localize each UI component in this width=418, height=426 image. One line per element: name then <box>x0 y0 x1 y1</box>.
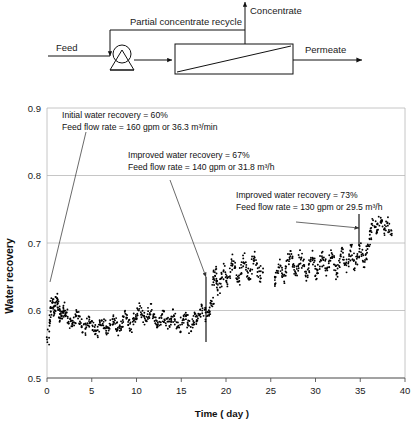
data-point <box>290 253 292 255</box>
data-point <box>313 261 315 263</box>
data-point <box>48 344 50 346</box>
data-point <box>257 271 259 273</box>
x-tick-label: 40 <box>400 385 411 396</box>
data-point <box>224 271 226 273</box>
data-point <box>219 286 221 288</box>
permeate-label: Permeate <box>305 44 346 55</box>
x-tick-label: 5 <box>89 385 94 396</box>
data-point <box>323 264 325 266</box>
data-point <box>194 312 196 314</box>
data-point <box>226 282 228 284</box>
data-point <box>199 309 201 311</box>
data-point <box>178 327 180 329</box>
data-point <box>274 283 276 285</box>
data-point <box>308 271 310 273</box>
data-point <box>224 265 226 267</box>
data-point <box>391 233 393 235</box>
data-point <box>151 309 153 311</box>
data-point <box>216 287 218 289</box>
data-point <box>196 316 198 318</box>
data-point <box>319 261 321 263</box>
data-point <box>337 272 339 274</box>
data-point <box>225 273 227 275</box>
data-point <box>325 270 327 272</box>
data-point <box>62 308 64 310</box>
data-point <box>388 223 390 225</box>
annotation-line: Improved water recovery = 73% <box>236 190 358 200</box>
data-point <box>244 263 246 265</box>
data-point <box>199 314 201 316</box>
data-point <box>259 275 261 277</box>
data-point <box>50 316 52 318</box>
data-point <box>83 324 85 326</box>
data-point <box>55 305 57 307</box>
data-point <box>245 269 247 271</box>
data-point <box>276 272 278 274</box>
data-point <box>81 318 83 320</box>
data-point <box>72 324 74 326</box>
data-point <box>346 259 348 261</box>
x-tick-label: 10 <box>131 385 142 396</box>
data-point <box>381 221 383 223</box>
data-point <box>86 322 88 324</box>
data-point <box>119 324 121 326</box>
data-point <box>182 318 184 320</box>
data-point <box>88 325 90 327</box>
data-point <box>94 333 96 335</box>
data-point <box>228 276 230 278</box>
data-point <box>197 313 199 315</box>
data-point <box>319 255 321 257</box>
data-point <box>363 266 365 268</box>
grid-layer <box>47 108 405 378</box>
data-point <box>85 326 87 328</box>
data-point <box>85 324 87 326</box>
data-point <box>328 259 330 261</box>
data-point <box>348 265 350 267</box>
data-point <box>46 341 48 343</box>
data-point <box>250 278 252 280</box>
data-point <box>338 260 340 262</box>
data-point <box>307 274 309 276</box>
data-point <box>299 249 301 251</box>
data-point <box>203 315 205 317</box>
data-point <box>66 312 68 314</box>
data-point <box>231 260 233 262</box>
x-tick-label: 15 <box>176 385 187 396</box>
data-point <box>342 252 344 254</box>
data-point <box>133 317 135 319</box>
data-point <box>213 277 215 279</box>
data-point <box>128 319 130 321</box>
data-point <box>349 259 351 261</box>
data-point <box>183 322 185 324</box>
data-point <box>129 323 131 325</box>
data-point <box>149 312 151 314</box>
data-point <box>362 261 364 263</box>
data-point <box>385 225 387 227</box>
data-point <box>319 268 321 270</box>
data-point <box>196 319 198 321</box>
data-point <box>293 266 295 268</box>
y-tick-label: 0.8 <box>28 170 41 181</box>
x-tick-labels: 0510152025303540 <box>44 378 410 396</box>
data-point <box>143 316 145 318</box>
x-tick-label: 0 <box>44 385 49 396</box>
annotation-line: Feed flow rate = 140 gpm or 31.8 m³/h <box>128 162 275 172</box>
data-point <box>140 307 142 309</box>
data-point <box>105 330 107 332</box>
data-point <box>127 324 129 326</box>
data-point <box>354 269 356 271</box>
data-point <box>384 234 386 236</box>
data-point <box>335 269 337 271</box>
data-point <box>245 264 247 266</box>
data-point <box>212 297 214 299</box>
data-point <box>255 259 257 261</box>
data-point <box>129 329 131 331</box>
data-point <box>296 268 298 270</box>
data-point <box>173 315 175 317</box>
data-point <box>58 300 60 302</box>
data-point <box>287 253 289 255</box>
data-point <box>170 324 172 326</box>
data-point <box>134 321 136 323</box>
data-point <box>79 323 81 325</box>
data-point <box>285 266 287 268</box>
